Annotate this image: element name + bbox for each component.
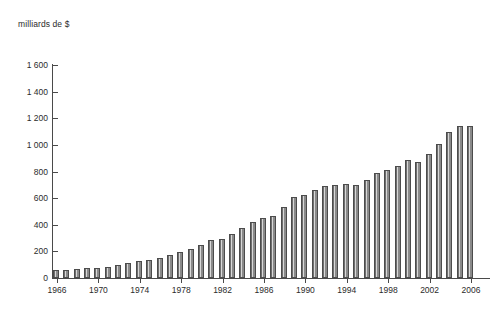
bar [364,180,370,279]
y-tick-label: 200 [4,246,48,256]
bar [332,185,338,278]
bar [74,269,80,278]
bar-chart: milliards de $ 02004006008001 0001 2001 … [0,0,500,317]
bar [53,270,59,278]
bar [125,263,131,278]
bar [457,126,463,278]
bar [405,160,411,278]
x-tick-label: 1978 [172,285,191,295]
bar [146,260,152,278]
x-tick-mark [264,279,265,283]
x-tick-mark [57,279,58,283]
bar [270,216,276,278]
plot-area [53,65,490,278]
x-tick-mark [223,279,224,283]
y-tick-label: 600 [4,193,48,203]
bar [250,222,256,278]
bar [446,132,452,278]
x-tick-mark [430,279,431,283]
bar [312,190,318,278]
y-tick-label: 1 400 [4,87,48,97]
bar [353,185,359,278]
bar [322,186,328,278]
bar [115,265,121,278]
bar [426,154,432,278]
x-tick-label: 1970 [89,285,108,295]
bar [177,252,183,278]
x-tick-label: 1982 [213,285,232,295]
bar [63,270,69,278]
bar [229,234,235,278]
x-tick-label: 2002 [420,285,439,295]
bar [467,126,473,278]
bar [219,239,225,278]
x-tick-label: 1994 [337,285,356,295]
x-tick-label: 1986 [255,285,274,295]
bar [415,162,421,278]
x-tick-mark [347,279,348,283]
y-axis-title: milliards de $ [18,19,69,29]
bar [157,258,163,278]
y-tick-label: 1 200 [4,113,48,123]
bar [374,173,380,278]
bar [343,184,349,278]
bar [436,144,442,278]
bar [239,228,245,278]
bar [94,268,100,278]
x-tick-mark [181,279,182,283]
x-tick-label: 1998 [379,285,398,295]
x-tick-mark [388,279,389,283]
bar [260,218,266,278]
x-tick-label: 1990 [296,285,315,295]
bar [167,255,173,278]
x-tick-mark [98,279,99,283]
bar [84,268,90,278]
y-tick-label: 1 600 [4,60,48,70]
y-tick-label: 400 [4,220,48,230]
bar [281,207,287,278]
y-tick-label: 800 [4,167,48,177]
bar [384,170,390,278]
x-tick-mark [305,279,306,283]
bar [198,245,204,278]
x-tick-label: 1974 [130,285,149,295]
bar [291,197,297,278]
x-tick-label: 2006 [462,285,481,295]
bar [136,261,142,278]
x-axis-line [52,278,490,279]
y-tick-label: 1 000 [4,140,48,150]
bar [188,249,194,278]
bar [208,240,214,278]
bar [395,166,401,278]
x-tick-mark [471,279,472,283]
bar [105,267,111,278]
x-tick-mark [140,279,141,283]
y-tick-label: 0 [4,273,48,283]
x-tick-label: 1966 [48,285,67,295]
bar [301,195,307,278]
